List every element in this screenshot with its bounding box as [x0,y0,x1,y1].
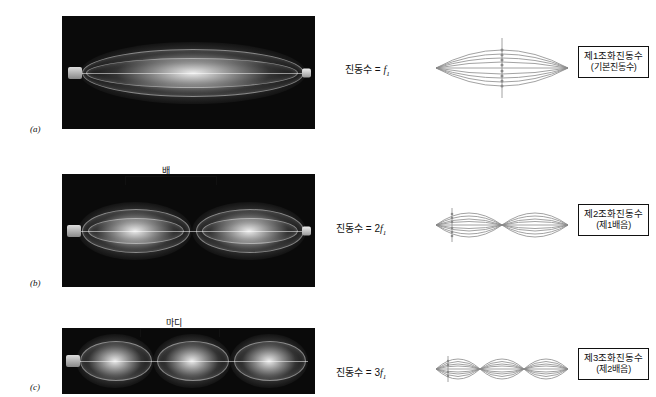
string-end-peg-right [302,226,311,235]
harmonic-diagram-third-svg [432,341,572,397]
string-end-peg-left [66,355,80,367]
caption-third-line1: 제3조화진동수 [584,352,643,364]
frequency-subscript-third: 1 [383,373,387,381]
antinode-bracket-label: 배 [162,164,170,177]
caption-second-line1: 제2조화진동수 [584,208,643,220]
frequency-prefix-first: 진동수 = [345,64,383,75]
harmonic-diagram-first [432,28,572,108]
frequency-prefix-third: 진동수 = 3 [336,367,380,378]
string-end-peg-right [302,68,311,77]
string-envelope-loop-1-inner-2 [88,218,184,244]
harmonic-diagram-first-svg [432,28,572,108]
antinode-bracket [125,176,217,185]
string-envelope-loop-2-inner [157,341,229,381]
harmonic-diagram-second [432,192,572,258]
string-envelope-inner-2 [86,58,298,88]
harmonic-row-third: 마디 (c) 진동수 = 3f1 [0,314,656,393]
frequency-label-third: 진동수 = 3f1 [336,364,386,381]
figure-letter-c: (c) [30,382,40,392]
harmonic-row-first: (a) 진동수 = f1 [0,6,656,151]
string-end-peg-left [68,67,82,79]
caption-box-second: 제2조화진동수 (제1배음) [578,204,649,236]
photo-standing-wave-second [62,174,315,287]
caption-first-line1: 제1조화진동수 [584,50,643,62]
string-envelope-loop-3-inner [234,341,306,381]
string-envelope-loop-2-inner-2 [202,218,298,244]
frequency-label-second: 진동수 = 2f1 [336,220,386,237]
figure-letter-b: (b) [30,278,41,288]
caption-box-first: 제1조화진동수 (기본진동수) [578,46,649,78]
figure-letter-a: (a) [30,124,41,134]
string-envelope-loop-1-inner [80,341,152,381]
photo-standing-wave-third [62,328,315,394]
harmonic-row-second: 배 (b) 진동수 = 2f1 [0,160,656,305]
harmonic-diagram-second-svg [432,192,572,258]
frequency-subscript-second: 1 [383,229,387,237]
caption-first-line2: (기본진동수) [584,62,643,73]
photo-standing-wave-first [62,16,315,129]
caption-box-third: 제3조화진동수 (제2배음) [578,348,649,380]
harmonic-diagram-third [432,341,572,397]
node-bracket-label: 마디 [166,316,182,329]
frequency-subscript-first: 1 [386,70,390,78]
node-bracket [140,328,220,337]
frequency-label-first: 진동수 = f1 [345,61,390,78]
caption-second-line2: (제1배음) [584,220,643,231]
frequency-prefix-second: 진동수 = 2 [336,223,380,234]
string-end-peg-left [67,225,81,237]
caption-third-line2: (제2배음) [584,364,643,375]
